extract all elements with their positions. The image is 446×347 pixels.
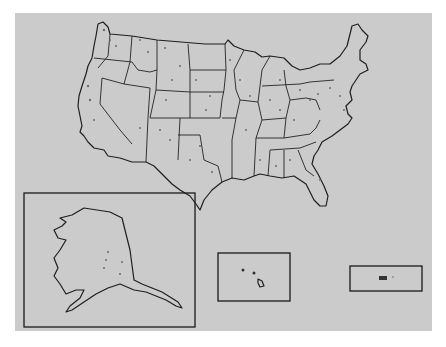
us-map: [0, 0, 446, 347]
puerto-rico-inset: [350, 266, 422, 291]
data-points: [87, 29, 345, 181]
contiguous-us: [78, 22, 368, 210]
alaska-inset: [24, 193, 195, 327]
hawaii-inset: [218, 253, 290, 301]
